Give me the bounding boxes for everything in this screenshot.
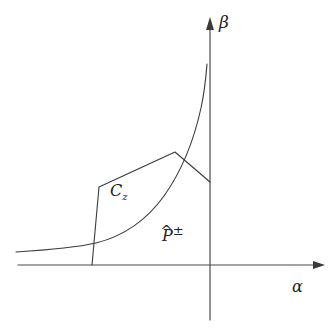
curve-phat-label: ^P ±	[162, 224, 184, 244]
hat-accent-icon: ^	[160, 224, 172, 239]
alpha-axis-label: α	[292, 279, 303, 295]
beta-axis-label: β	[219, 14, 229, 31]
region-cz-label: Cz	[110, 183, 128, 202]
figure-root: β α Cz ^P ±	[0, 0, 334, 332]
beta-axis-arrowhead	[206, 17, 214, 30]
region-cz-polygon	[92, 152, 210, 265]
curve-phat-label-base-wrap: ^P	[162, 228, 173, 244]
figure-canvas	[0, 0, 334, 332]
curve-phat-label-superscript: ±	[173, 223, 184, 238]
alpha-axis-arrowhead	[313, 261, 325, 269]
region-cz-label-base: C	[110, 181, 122, 200]
region-cz-label-subscript: z	[122, 191, 127, 202]
